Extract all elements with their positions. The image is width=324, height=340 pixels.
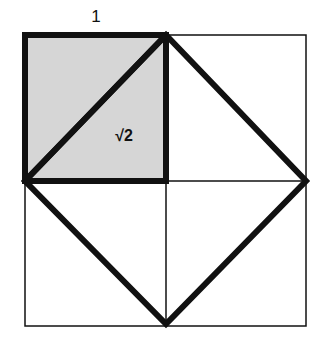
diagonal-length-label: √2 (115, 127, 133, 144)
square-doubling-diagram: 1 √2 (0, 0, 324, 340)
side-length-label: 1 (91, 7, 100, 26)
